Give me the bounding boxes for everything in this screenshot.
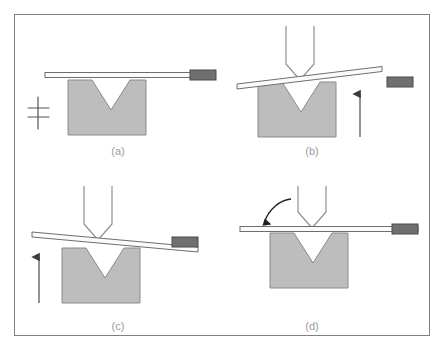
v-die-block — [270, 233, 348, 288]
gripper-block — [172, 237, 198, 247]
panel-a: (a) — [28, 70, 216, 157]
sheet-workpiece — [240, 227, 418, 232]
panel-d: (d) — [240, 186, 418, 332]
gripper-block — [387, 77, 413, 87]
gripper-block — [190, 70, 216, 80]
figure-container: (a) (b) — [0, 0, 444, 350]
punch-tool — [84, 186, 112, 240]
punch-tool — [298, 186, 326, 228]
panel-label-d: (d) — [305, 320, 318, 332]
fixed-support-icon — [28, 97, 49, 129]
v-die-block — [62, 248, 140, 303]
springback-curved-arrow — [265, 199, 292, 222]
panel-label-a: (a) — [111, 145, 124, 157]
panel-b: (b) — [237, 26, 413, 157]
punch-tool — [286, 26, 314, 80]
panel-label-b: (b) — [305, 145, 318, 157]
panel-label-c: (c) — [112, 320, 125, 332]
v-die-block — [258, 82, 336, 137]
bending-sequence-diagram: (a) (b) — [0, 0, 444, 350]
sheet-workpiece — [45, 73, 192, 78]
gripper-block — [392, 224, 418, 234]
panel-c: (c) — [32, 186, 198, 332]
v-die-block — [68, 80, 146, 135]
